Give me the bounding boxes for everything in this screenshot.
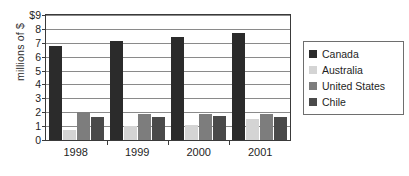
bar-united-states-1999 (138, 114, 151, 140)
legend-swatch-icon (309, 50, 317, 58)
bar-united-states-1998 (77, 112, 90, 140)
bar-group-2000 (168, 15, 229, 140)
bar-canada-1998 (49, 46, 62, 140)
legend-swatch-icon (309, 98, 317, 106)
bar-groups (46, 15, 290, 140)
legend-item-united-states[interactable]: United States (309, 78, 399, 94)
legend-item-chile[interactable]: Chile (309, 94, 399, 110)
bar-australia-1998 (63, 130, 76, 140)
x-tick-label-2001: 2001 (230, 146, 292, 158)
y-axis-title: millions of $ (14, 0, 26, 112)
bar-chart-figure: millions of $ 012345678$9 19981999200020… (0, 0, 409, 176)
legend-label: United States (322, 81, 385, 92)
x-tick-label-2000: 2000 (168, 146, 230, 158)
bar-australia-1999 (124, 126, 137, 140)
bar-canada-1999 (110, 41, 123, 140)
legend-swatch-icon (309, 82, 317, 90)
plot-area: 012345678$9 (45, 14, 291, 141)
bar-group-2001 (229, 15, 290, 140)
bar-chile-2000 (213, 116, 226, 140)
bar-canada-2001 (232, 33, 245, 140)
legend-label: Canada (322, 49, 359, 60)
x-axis-labels: 1998199920002001 (45, 146, 291, 158)
bar-group-1998 (46, 15, 107, 140)
legend-label: Chile (322, 97, 346, 108)
legend-label: Australia (322, 65, 363, 76)
bar-australia-2001 (246, 119, 259, 140)
x-tick-mark (229, 140, 230, 145)
x-tick-label-1998: 1998 (45, 146, 107, 158)
chart-legend: CanadaAustraliaUnited StatesChile (303, 41, 404, 115)
bar-australia-2000 (185, 125, 198, 140)
y-tick-mark (42, 140, 46, 141)
bar-chile-1999 (152, 117, 165, 140)
bar-group-1999 (107, 15, 168, 140)
legend-swatch-icon (309, 66, 317, 74)
bar-canada-2000 (171, 37, 184, 140)
bar-chile-1998 (91, 117, 104, 140)
bar-united-states-2001 (260, 114, 273, 140)
legend-item-canada[interactable]: Canada (309, 46, 399, 62)
legend-item-australia[interactable]: Australia (309, 62, 399, 78)
x-tick-mark (168, 140, 169, 145)
bar-united-states-2000 (199, 114, 212, 140)
x-tick-label-1999: 1999 (107, 146, 169, 158)
x-tick-mark (107, 140, 108, 145)
bar-chile-2001 (274, 117, 287, 140)
